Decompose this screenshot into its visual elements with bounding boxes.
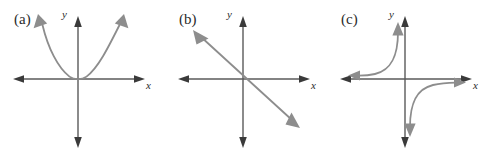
hyperbola-branch-upper-left [348, 22, 404, 81]
panel-b-x-axis-label: x [310, 79, 316, 91]
x-axis-arrow-right [134, 75, 145, 83]
parabola-curve [34, 14, 129, 79]
hyperbola-down-arrowhead [404, 123, 415, 137]
x-axis-arrow-left [340, 75, 351, 83]
three-graph-figure: (a) y x (b) y [0, 0, 483, 160]
y-axis-arrow-down [239, 137, 247, 148]
panel-b-y-axis [239, 16, 247, 148]
x-axis-arrow-left [178, 75, 189, 83]
hyperbola-branch-lower-right [404, 78, 466, 137]
y-axis-arrow-up [74, 16, 82, 27]
panel-c: (c) y x [340, 8, 478, 148]
panel-c-label: (c) [341, 11, 358, 28]
hyperbola-up-arrowhead [392, 22, 403, 36]
y-axis-arrow-down [74, 137, 82, 148]
y-axis-arrow-up [401, 16, 409, 27]
panel-b: (b) y x [178, 8, 316, 148]
panel-a-x-axis-label: x [145, 79, 151, 91]
y-axis-arrow-up [239, 16, 247, 27]
x-axis-arrow-left [13, 75, 24, 83]
panel-c-y-axis-label: y [388, 8, 394, 20]
panel-b-label: (b) [179, 11, 197, 28]
panel-a: (a) y x [13, 8, 151, 148]
panel-a-label: (a) [14, 11, 31, 28]
parabola-left-arrowhead [34, 14, 48, 28]
figure-canvas: (a) y x (b) y [0, 0, 483, 160]
parabola-right-arrowhead [115, 14, 129, 28]
panel-a-y-axis-label: y [61, 8, 67, 20]
panel-c-x-axis-label: x [472, 79, 478, 91]
panel-a-y-axis [74, 16, 82, 148]
y-axis-arrow-down [401, 137, 409, 148]
line-lower-right-arrowhead [286, 113, 301, 129]
panel-b-y-axis-label: y [226, 8, 232, 20]
x-axis-arrow-right [299, 75, 310, 83]
